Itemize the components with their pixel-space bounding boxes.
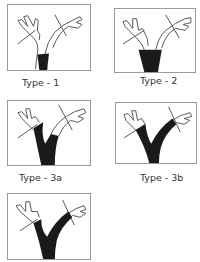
label-type-3b: Type - 3b <box>140 172 183 183</box>
tree-branch-illustration <box>116 103 196 163</box>
panel-type-2 <box>114 8 196 73</box>
panel-type-3b <box>115 102 197 164</box>
tree-branch-illustration <box>115 9 195 72</box>
tree-branch-illustration <box>8 5 90 70</box>
label-type-1: Type - 1 <box>22 77 59 88</box>
tree-branch-illustration <box>8 194 90 259</box>
label-type-3a: Type - 3a <box>19 172 62 183</box>
tree-branch-illustration <box>8 101 90 165</box>
panel-type-1 <box>7 4 91 71</box>
panel-type-4 <box>7 193 91 260</box>
panel-type-3a <box>7 100 91 166</box>
label-type-2: Type - 2 <box>140 75 177 86</box>
